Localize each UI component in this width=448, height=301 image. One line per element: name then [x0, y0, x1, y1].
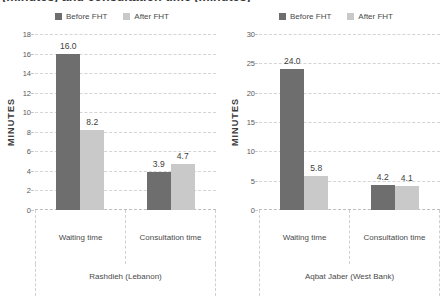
y-tick-label-left-16: 16	[23, 49, 31, 58]
legend-label-after-fht: After FHT	[134, 12, 169, 21]
bar-group-right-1: 4.24.1	[350, 34, 441, 210]
bar-left-1-0[interactable]: 3.9	[147, 172, 171, 210]
bar-right-0-1[interactable]: 5.8	[304, 176, 328, 210]
plot-area-left: MINUTES 024681012141618 16.08.23.94.7	[0, 34, 224, 210]
y-tick-label-right-20: 20	[247, 88, 255, 97]
legend-label-before-fht-right: Before FHT	[290, 12, 331, 21]
y-tick-mark-left-8	[31, 132, 34, 133]
bars-area-left: 16.08.23.94.7	[35, 34, 216, 210]
legend-right: Before FHT After FHT	[224, 12, 448, 21]
bar-value-label-left-1-0: 3.9	[153, 159, 165, 169]
category-label-table-right: Waiting time Consultation time Aqbat Jab…	[259, 210, 440, 296]
plot-area-right: MINUTES 051015202530 24.05.84.24.1	[224, 34, 448, 210]
y-tick-mark-right-20	[255, 93, 258, 94]
bar-value-label-left-1-1: 4.7	[177, 151, 189, 161]
y-tick-mark-right-15	[255, 122, 258, 123]
category-label-row-left: Waiting time Consultation time	[35, 210, 216, 264]
legend-item-before-fht: Before FHT	[55, 12, 107, 21]
legend-item-before-fht-right: Before FHT	[279, 12, 331, 21]
bar-left-1-1[interactable]: 4.7	[171, 164, 195, 210]
y-tick-mark-right-0	[255, 210, 258, 211]
y-tick-label-right-15: 15	[247, 118, 255, 127]
y-tick-label-right-30: 30	[247, 30, 255, 39]
y-tick-mark-left-0	[31, 210, 34, 211]
y-tick-mark-left-18	[31, 34, 34, 35]
y-tick-mark-left-16	[31, 54, 34, 55]
y-tick-label-left-14: 14	[23, 69, 31, 78]
bar-value-label-right-0-0: 24.0	[284, 56, 301, 66]
legend-left: Before FHT After FHT	[0, 12, 224, 21]
category-label-table-left: Waiting time Consultation time Rashdieh …	[35, 210, 216, 296]
bar-group-left-0: 16.08.2	[35, 34, 126, 210]
chart-title-left: Rashdieh (Lebanon)	[35, 264, 216, 296]
category-label-row-right: Waiting time Consultation time	[259, 210, 440, 264]
category-cell-consultation-time-left: Consultation time	[126, 210, 216, 264]
chart-title-right: Aqbat Jaber (West Bank)	[259, 264, 440, 296]
bar-left-0-0[interactable]: 16.0	[56, 54, 80, 210]
legend-item-after-fht: After FHT	[123, 12, 169, 21]
y-tick-mark-right-30	[255, 34, 258, 35]
legend-label-after-fht-right: After FHT	[358, 12, 393, 21]
bar-group-right-0: 24.05.8	[259, 34, 350, 210]
legend-label-before-fht: Before FHT	[66, 12, 107, 21]
y-tick-mark-left-12	[31, 93, 34, 94]
y-tick-mark-left-14	[31, 73, 34, 74]
category-cell-waiting-time-right: Waiting time	[259, 210, 350, 264]
legend-swatch-after-fht	[123, 13, 130, 20]
y-tick-mark-left-4	[31, 171, 34, 172]
bar-left-0-1[interactable]: 8.2	[80, 130, 104, 210]
bar-right-0-0[interactable]: 24.0	[280, 69, 304, 210]
y-tick-label-right-10: 10	[247, 147, 255, 156]
legend-swatch-before-fht	[55, 13, 62, 20]
y-axis-ticks-right: 051015202530	[238, 34, 258, 210]
y-tick-mark-right-25	[255, 63, 258, 64]
legend-swatch-after-fht-right	[347, 13, 354, 20]
category-cell-waiting-time-left: Waiting time	[35, 210, 126, 264]
y-tick-mark-left-6	[31, 151, 34, 152]
bar-value-label-left-0-0: 16.0	[60, 41, 77, 51]
y-tick-label-left-18: 18	[23, 30, 31, 39]
bar-value-label-left-0-1: 8.2	[86, 117, 98, 127]
bar-value-label-right-1-1: 4.1	[401, 173, 413, 183]
y-tick-label-right-25: 25	[247, 59, 255, 68]
y-tick-mark-right-10	[255, 151, 258, 152]
bar-right-1-1[interactable]: 4.1	[395, 186, 419, 210]
legend-swatch-before-fht-right	[279, 13, 286, 20]
bar-value-label-right-1-0: 4.2	[377, 172, 389, 182]
y-tick-mark-left-2	[31, 190, 34, 191]
legend-item-after-fht-right: After FHT	[347, 12, 393, 21]
chart-panel-rashdieh: Before FHT After FHT MINUTES 02468101214…	[0, 0, 224, 301]
category-cell-consultation-time-right: Consultation time	[350, 210, 440, 264]
y-tick-mark-right-5	[255, 181, 258, 182]
bar-value-label-right-0-1: 5.8	[310, 163, 322, 173]
figure-sheet: Before FHT After FHT MINUTES 02468101214…	[0, 0, 448, 301]
chart-panel-aqbat-jaber: Before FHT After FHT MINUTES 05101520253…	[224, 0, 448, 301]
bars-area-right: 24.05.84.24.1	[259, 34, 440, 210]
y-tick-mark-left-10	[31, 112, 34, 113]
y-tick-label-left-10: 10	[23, 108, 31, 117]
bar-group-left-1: 3.94.7	[126, 34, 217, 210]
bar-right-1-0[interactable]: 4.2	[371, 185, 395, 210]
y-tick-label-left-12: 12	[23, 88, 31, 97]
y-axis-ticks-left: 024681012141618	[14, 34, 34, 210]
